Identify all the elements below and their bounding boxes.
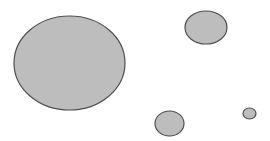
diagram-canvas xyxy=(0,0,270,141)
upper-right-circle xyxy=(185,11,227,44)
bottom-circle xyxy=(155,111,184,136)
large-circle xyxy=(14,16,125,110)
small-circle xyxy=(243,108,256,119)
